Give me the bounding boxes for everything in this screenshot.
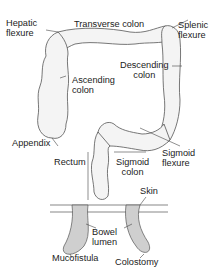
transverse-colon-shape — [57, 26, 173, 52]
label-bowel-lumen: Bowel lumen — [92, 227, 117, 247]
colon-anatomy-diagram: Hepatic flexure Transverse colon Splenic… — [0, 0, 219, 273]
label-sigmoid-flexure: Sigmoid flexure — [162, 148, 195, 168]
label-descending-colon: Descending colon — [120, 60, 169, 80]
ascending-colon-shape — [38, 32, 69, 138]
label-transverse-colon: Transverse colon — [74, 19, 144, 29]
descending-colon-shape — [158, 26, 181, 144]
label-hepatic-flexure: Hepatic flexure — [6, 18, 37, 38]
label-sigmoid-colon: Sigmoid colon — [116, 157, 149, 177]
label-colostomy: Colostomy — [115, 257, 158, 267]
label-rectum: Rectum — [54, 157, 86, 167]
label-splenic-flexure: Splenic flexure — [178, 20, 208, 40]
label-mucofistula: Mucofistula — [52, 253, 98, 263]
label-appendix: Appendix — [12, 138, 50, 148]
label-ascending-colon: Ascending colon — [72, 75, 115, 95]
label-skin: Skin — [140, 186, 158, 196]
mucofistula-shape — [63, 205, 88, 254]
